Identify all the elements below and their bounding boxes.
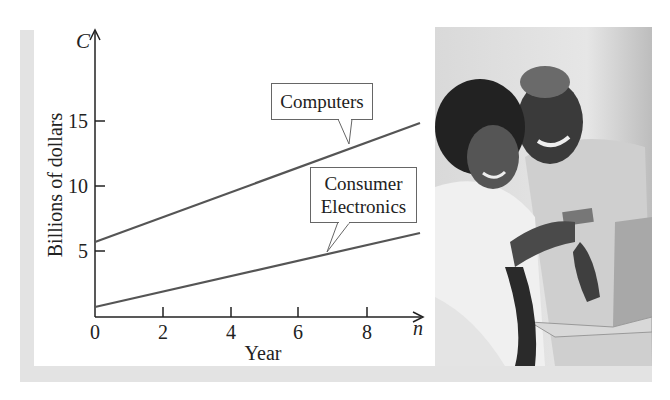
callout-consumer-line2: Electronics	[311, 195, 416, 218]
y-tick-label-5: 5	[78, 240, 88, 262]
x-tick-label-2: 2	[158, 321, 168, 343]
x-tick-label-8: 8	[362, 321, 372, 343]
y-tick-label-15: 15	[68, 110, 88, 132]
callout-computers-text: Computers	[280, 91, 363, 112]
x-tick-label-6: 6	[293, 321, 303, 343]
y-axis-variable: C	[76, 29, 91, 53]
callout-consumer-electronics: Consumer Electronics	[310, 167, 417, 223]
x-axis-variable: n	[413, 317, 423, 339]
callout-pointer-computers	[338, 119, 352, 144]
photo-illustration	[435, 27, 652, 366]
photo-couple-shopping-online	[435, 27, 652, 366]
y-tick-label-10: 10	[68, 175, 88, 197]
callout-pointer-consumer	[327, 222, 350, 252]
x-tick-label-0: 0	[90, 321, 100, 343]
series-line-consumer-electronics	[95, 233, 420, 307]
y-axis-label: Billions of dollars	[44, 113, 66, 258]
callout-consumer-line1: Consumer	[311, 172, 416, 195]
x-tick-label-4: 4	[226, 321, 236, 343]
x-axis-label: Year	[245, 342, 282, 364]
callout-computers: Computers	[271, 83, 373, 120]
